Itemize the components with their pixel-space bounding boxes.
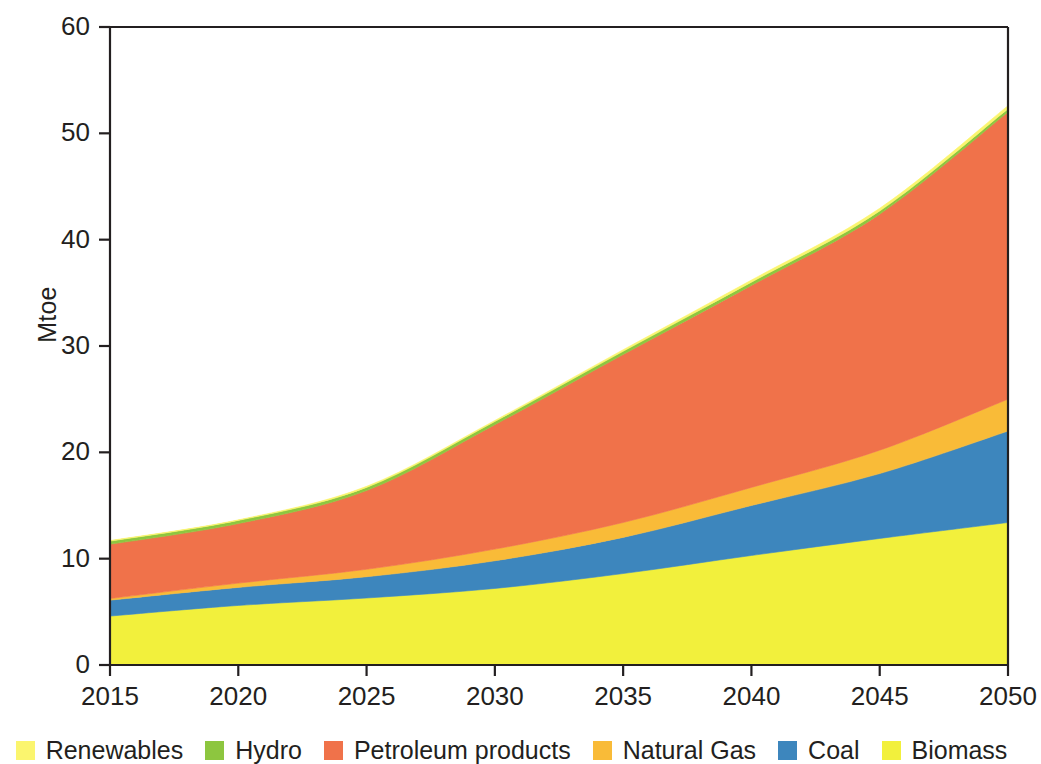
x-tick-label: 2050 <box>953 683 1041 709</box>
legend-swatch-icon <box>16 741 35 760</box>
legend-item-natural-gas[interactable]: Natural Gas <box>593 738 756 763</box>
legend-label: Hydro <box>235 738 302 763</box>
x-tick-label: 2025 <box>312 683 422 709</box>
legend-item-petroleum-products[interactable]: Petroleum products <box>324 738 571 763</box>
legend-item-hydro[interactable]: Hydro <box>205 738 302 763</box>
y-tick-label: 0 <box>26 651 90 677</box>
legend-label: Coal <box>808 738 859 763</box>
legend-label: Natural Gas <box>623 738 756 763</box>
legend-swatch-icon <box>205 741 224 760</box>
y-tick-label: 60 <box>26 13 90 39</box>
legend-item-renewables[interactable]: Renewables <box>16 738 184 763</box>
legend-item-biomass[interactable]: Biomass <box>882 738 1008 763</box>
legend-swatch-icon <box>882 741 901 760</box>
legend-swatch-icon <box>593 741 612 760</box>
y-tick-label: 50 <box>26 119 90 145</box>
x-tick-label: 2035 <box>568 683 678 709</box>
y-tick-label: 10 <box>26 545 90 571</box>
y-tick-label: 30 <box>26 332 90 358</box>
legend-label: Biomass <box>912 738 1008 763</box>
x-tick-label: 2020 <box>183 683 293 709</box>
chart-legend: RenewablesHydroPetroleum productsNatural… <box>0 736 1023 764</box>
legend-swatch-icon <box>324 741 343 760</box>
x-tick-label: 2040 <box>696 683 806 709</box>
stacked-areas <box>110 106 1008 665</box>
legend-swatch-icon <box>778 741 797 760</box>
legend-label: Renewables <box>46 738 184 763</box>
legend-item-coal[interactable]: Coal <box>778 738 859 763</box>
y-tick-label: 40 <box>26 226 90 252</box>
x-tick-label: 2015 <box>55 683 165 709</box>
legend-label: Petroleum products <box>354 738 571 763</box>
x-tick-label: 2030 <box>440 683 550 709</box>
x-tick-label: 2045 <box>825 683 935 709</box>
y-tick-label: 20 <box>26 438 90 464</box>
